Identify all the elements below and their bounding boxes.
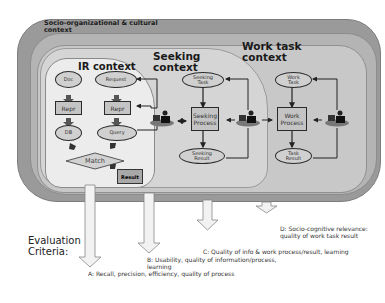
criterion-a: A: Recall, precision, efficiency, qualit…: [88, 271, 238, 278]
match-label: Match: [85, 157, 105, 165]
repr-request-label: Repr: [111, 105, 125, 112]
task-result-label: Task Result: [285, 151, 303, 162]
seeking-result-node: Seeking Result: [179, 148, 225, 164]
repr-request-node: Repr: [104, 101, 131, 115]
repr-doc-node: Repr: [55, 101, 82, 115]
request-node: Request: [95, 71, 137, 88]
criterion-c: C: Quality of info & work process/result…: [203, 249, 385, 256]
actor-icons: [150, 111, 349, 127]
seeking-process-label: Seeking Process: [192, 112, 218, 126]
query-node: Query: [97, 125, 137, 141]
work-task-label: Work Task: [285, 75, 303, 86]
result-label: Result: [121, 174, 139, 180]
work-process-label: Work Process: [278, 112, 306, 126]
doc-label: Doc: [64, 77, 74, 83]
query-label: Query: [109, 130, 124, 136]
doc-node: Doc: [55, 71, 82, 88]
seeking-process-node: Seeking Process: [191, 107, 219, 131]
result-node: Result: [117, 169, 143, 184]
criterion-d: D: Socio-cognitive relevance: quality of…: [280, 226, 372, 239]
repr-doc-label: Repr: [62, 105, 76, 112]
seeking-result-label: Seeking Result: [190, 151, 214, 162]
db-label: DB: [65, 130, 72, 136]
evaluation-criteria-title: Evaluation Criteria:: [28, 235, 88, 257]
seeking-task-label: Seeking Task: [192, 75, 214, 86]
match-node: Match: [66, 153, 124, 169]
work-process-node: Work Process: [277, 107, 307, 131]
request-label: Request: [106, 77, 126, 83]
db-node: DB: [55, 125, 82, 141]
work-task-node: Work Task: [275, 72, 312, 88]
seeking-task-node: Seeking Task: [182, 72, 224, 88]
task-result-node: Task Result: [275, 148, 312, 164]
criterion-b: B: Usability, quality of information/pro…: [147, 257, 292, 270]
